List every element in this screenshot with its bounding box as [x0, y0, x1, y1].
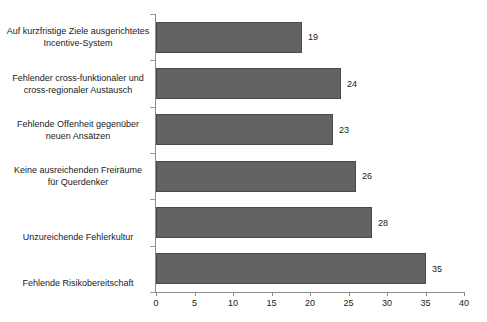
bar: [156, 22, 302, 53]
category-label-line: Fehlende Offenheit gegenüber: [17, 119, 139, 129]
y-axis-tick: [150, 60, 155, 61]
x-axis-tick: [195, 292, 196, 296]
y-axis-tick: [150, 107, 155, 108]
bar: [156, 114, 333, 145]
category-label-line: Unzureichende Fehlerkultur: [23, 232, 134, 242]
x-axis-tick: [310, 292, 311, 296]
x-axis-tick: [272, 292, 273, 296]
category-label-line: Auf kurzfristige Ziele ausgerichtetes: [7, 26, 150, 36]
category-label: Fehlender cross-funktionaler undcross-re…: [4, 72, 152, 96]
category-label-line: Fehlender cross-funktionaler und: [12, 73, 144, 83]
category-label-line: Fehlende Risikobereitschaft: [22, 278, 133, 288]
x-axis-tick-label: 30: [372, 298, 402, 309]
x-axis-tick-label: 5: [180, 298, 210, 309]
bar: [156, 161, 356, 192]
bar: [156, 68, 341, 99]
category-label-line: neuen Ansätzen: [46, 131, 111, 141]
category-label: Auf kurzfristige Ziele ausgerichtetesInc…: [4, 25, 152, 49]
bar-value-label: 23: [339, 125, 349, 135]
category-label: Fehlende Risikobereitschaft: [4, 277, 152, 289]
x-axis-tick: [233, 292, 234, 296]
y-axis-tick: [150, 14, 155, 15]
x-axis-tick-label: 40: [449, 298, 479, 309]
y-axis-line: [155, 14, 156, 292]
x-axis-tick-label: 0: [141, 298, 171, 309]
y-axis-tick: [150, 199, 155, 200]
x-axis-tick-label: 15: [257, 298, 287, 309]
x-axis-tick: [349, 292, 350, 296]
x-axis-tick: [387, 292, 388, 296]
category-label-line: für Querdenker: [48, 177, 109, 187]
category-label-line: Keine ausreichenden Freiräume: [14, 165, 142, 175]
y-axis-tick: [150, 153, 155, 154]
bar-value-label: 26: [362, 171, 372, 181]
category-label-line: cross-regionaler Austausch: [24, 85, 133, 95]
category-label: Keine ausreichenden Freiräumefür Querden…: [4, 164, 152, 188]
category-label: Fehlende Offenheit gegenüberneuen Ansätz…: [4, 118, 152, 142]
bar-value-label: 35: [432, 264, 442, 274]
plot-area: 0510152025303540 192423262835 Auf kurzfr…: [0, 0, 487, 322]
bar: [156, 253, 426, 284]
bar: [156, 207, 372, 238]
bar-value-label: 28: [378, 218, 388, 228]
x-axis-tick-label: 10: [218, 298, 248, 309]
y-axis-tick: [150, 292, 155, 293]
bar-chart: 0510152025303540 192423262835 Auf kurzfr…: [0, 0, 487, 322]
bar-value-label: 24: [347, 79, 357, 89]
x-axis-tick: [156, 292, 157, 296]
y-axis-tick: [150, 246, 155, 247]
category-label-line: Incentive-System: [43, 38, 112, 48]
x-axis-tick-label: 20: [295, 298, 325, 309]
x-axis-tick-label: 25: [334, 298, 364, 309]
x-axis-tick: [464, 292, 465, 296]
x-axis-tick-label: 35: [411, 298, 441, 309]
category-label: Unzureichende Fehlerkultur: [4, 231, 152, 243]
bar-value-label: 19: [308, 32, 318, 42]
x-axis-tick: [426, 292, 427, 296]
